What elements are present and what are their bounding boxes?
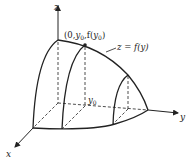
cross-section-y-zero <box>33 40 58 128</box>
curve-label-leader <box>106 48 116 52</box>
point-label: (0,y0,f(y0) <box>64 30 105 41</box>
solid-of-revolution-diagram: z y x (0,y0,f(y0) z = f(y) y0 <box>0 0 187 161</box>
point-marker <box>83 43 87 47</box>
x-axis <box>15 103 58 147</box>
cross-section-small <box>113 75 128 125</box>
x-axis-label: x <box>6 149 11 159</box>
y-axis <box>58 103 178 113</box>
base-curve <box>33 110 148 129</box>
curve-label: z = f(y) <box>116 42 149 52</box>
y-axis-label: y <box>179 112 186 122</box>
y0-label: y0 <box>87 95 97 106</box>
y0-base-dashed <box>62 106 85 129</box>
z-axis-label: z <box>53 2 59 12</box>
cross-section-y0 <box>62 45 85 129</box>
